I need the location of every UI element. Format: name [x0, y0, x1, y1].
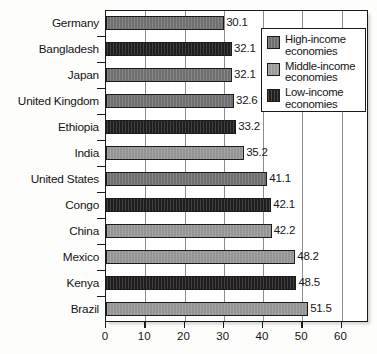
value-tick-label: 40 — [247, 330, 277, 342]
bar-value-label: 48.2 — [297, 250, 319, 262]
bar-row — [106, 219, 367, 245]
category-tick — [97, 140, 105, 141]
value-tick-label: 60 — [326, 330, 356, 342]
bar — [106, 276, 296, 290]
bar-value-label: 48.5 — [298, 276, 320, 288]
legend-item-high: High-incomeeconomies — [267, 34, 361, 58]
legend-label-line2: economies — [285, 46, 346, 58]
bar-value-label: 32.6 — [236, 94, 258, 106]
bar-row — [106, 193, 367, 219]
bar — [106, 250, 295, 264]
bar — [106, 302, 308, 316]
bar-value-label: 30.1 — [226, 16, 248, 28]
category-tick — [97, 114, 105, 115]
bar-value-label: 32.1 — [234, 68, 256, 80]
category-tick — [97, 270, 105, 271]
value-tick — [105, 322, 106, 328]
bar-value-label: 33.2 — [238, 120, 260, 132]
legend-label: Middle-incomeeconomies — [285, 61, 355, 85]
bar-value-label: 32.1 — [234, 42, 256, 54]
category-tick — [97, 62, 105, 63]
value-tick-label: 50 — [286, 330, 316, 342]
bar-row — [106, 271, 367, 297]
bar — [106, 224, 272, 238]
value-tick — [184, 322, 185, 328]
value-tick-label: 20 — [169, 330, 199, 342]
bar-row — [106, 115, 367, 141]
category-tick — [97, 296, 105, 297]
bar — [106, 16, 224, 30]
category-tick — [97, 218, 105, 219]
legend-label-line2: economies — [285, 72, 355, 84]
bar-value-label: 35.2 — [246, 146, 268, 158]
category-label-united-kingdom: United Kingdom — [0, 94, 99, 108]
bar — [106, 42, 232, 56]
category-tick — [97, 36, 105, 37]
bar-chart: GermanyBangladeshJapanUnited KingdomEthi… — [0, 0, 377, 354]
category-label-japan: Japan — [0, 68, 99, 82]
category-tick — [97, 244, 105, 245]
category-tick — [97, 166, 105, 167]
category-label-congo: Congo — [0, 198, 99, 212]
bar-row — [106, 245, 367, 271]
value-tick-label: 0 — [90, 330, 120, 342]
value-tick — [223, 322, 224, 328]
bar-value-label: 51.5 — [310, 302, 332, 314]
legend-swatch-high — [267, 36, 280, 49]
value-tick-label: 30 — [208, 330, 238, 342]
value-tick — [341, 322, 342, 328]
value-tick — [301, 322, 302, 328]
value-tick — [262, 322, 263, 328]
bar — [106, 68, 232, 82]
legend-label: Low-incomeeconomies — [285, 87, 343, 111]
legend-label: High-incomeeconomies — [285, 34, 346, 58]
value-tick — [144, 322, 145, 328]
legend-label-line2: economies — [285, 99, 343, 111]
legend-swatch-middle — [267, 63, 280, 76]
bar — [106, 94, 234, 108]
category-tick — [97, 192, 105, 193]
category-label-mexico: Mexico — [0, 250, 99, 264]
bar — [106, 146, 244, 160]
category-tick — [97, 88, 105, 89]
bar-value-label: 41.1 — [269, 172, 291, 184]
legend-item-middle: Middle-incomeeconomies — [267, 61, 361, 85]
bar — [106, 120, 236, 134]
legend: High-incomeeconomiesMiddle-incomeeconomi… — [261, 28, 366, 112]
category-label-ethiopia: Ethiopia — [0, 120, 99, 134]
bar — [106, 198, 271, 212]
category-label-kenya: Kenya — [0, 276, 99, 290]
value-tick-label: 10 — [129, 330, 159, 342]
bar — [106, 172, 267, 186]
bar-row — [106, 141, 367, 167]
legend-swatch-low — [267, 89, 280, 102]
bar-value-label: 42.2 — [274, 224, 296, 236]
category-label-germany: Germany — [0, 16, 99, 30]
category-label-india: India — [0, 146, 99, 160]
legend-item-low: Low-incomeeconomies — [267, 87, 361, 111]
bar-value-label: 42.1 — [273, 198, 295, 210]
category-label-bangladesh: Bangladesh — [0, 42, 99, 56]
bar-row — [106, 167, 367, 193]
category-label-brazil: Brazil — [0, 302, 99, 316]
category-label-united-states: United States — [0, 172, 99, 186]
category-label-china: China — [0, 224, 99, 238]
